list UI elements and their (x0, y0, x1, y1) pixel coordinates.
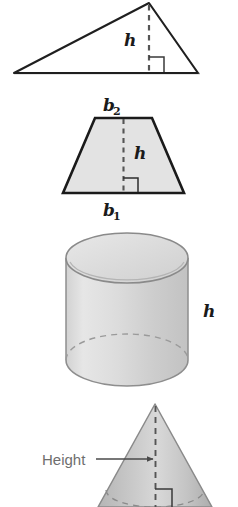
cylinder-figure: h (66, 233, 215, 386)
cylinder-height-label: h (203, 301, 215, 321)
cone-figure: Height (42, 404, 212, 507)
figure-page: h b 2 h b 1 h (0, 0, 238, 507)
trapezoid-top-base-subscript: 2 (113, 105, 121, 118)
triangle-outline (14, 3, 198, 73)
cone-height-callout-label: Height (42, 451, 86, 468)
triangle-figure: h (14, 3, 200, 74)
cylinder-top-ellipse (66, 233, 188, 283)
geometry-figures-canvas: h b 2 h b 1 h (0, 0, 238, 507)
trapezoid-height-label: h (134, 143, 146, 163)
trapezoid-figure: b 2 h b 1 (63, 95, 184, 223)
trapezoid-bottom-base-subscript: 1 (113, 210, 121, 223)
triangle-height-label: h (124, 30, 136, 50)
